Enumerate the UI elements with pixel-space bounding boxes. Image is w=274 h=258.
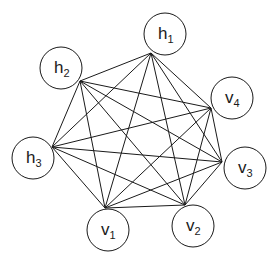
node-v1: v1 (87, 209, 129, 251)
edge-v3-v1 (105, 162, 222, 208)
edge-h3-v1 (52, 147, 105, 208)
edge-h2-h3 (52, 81, 80, 147)
edge-h3-v3 (52, 147, 222, 162)
nodes-layer: h1h2v4h3v3v1v2 (12, 13, 266, 251)
graph-svg: h1h2v4h3v3v1v2 (0, 0, 274, 258)
edge-h1-v2 (151, 53, 185, 205)
node-h3: h3 (12, 137, 54, 179)
node-v3: v3 (224, 147, 266, 189)
edge-h1-v1 (105, 53, 151, 208)
node-h2: h2 (40, 47, 82, 89)
graph-diagram: h1h2v4h3v3v1v2 (0, 0, 274, 258)
edge-v1-v2 (105, 205, 185, 208)
edge-h1-h2 (80, 53, 151, 81)
node-v2: v2 (172, 205, 214, 247)
edge-h3-v2 (52, 147, 185, 205)
node-v4: v4 (211, 77, 253, 119)
edge-h1-v3 (151, 53, 222, 162)
edge-h2-v3 (80, 81, 222, 162)
node-h1: h1 (144, 13, 186, 55)
